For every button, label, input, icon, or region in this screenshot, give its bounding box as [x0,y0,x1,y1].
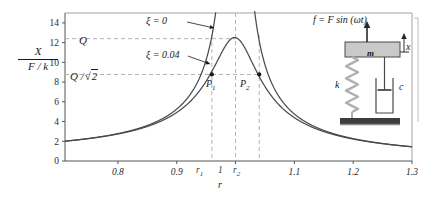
damped-curve-label: ξ = 0.04 [146,49,180,60]
inset-force-label: f = F sin (ωt) [313,14,367,25]
y-axis-label-denominator: F / k [18,61,58,73]
frequency-response-plot: 024681012140.80.91.11.21.3 [0,0,434,199]
inset-displacement-label: x [406,41,410,52]
y-tick-label: 6 [54,97,59,107]
inset-mass-label: m [367,48,374,58]
y-axis-label-numerator: X [18,46,58,58]
q-over-sqrt2-label: Q /2 [70,70,98,82]
curve-undamped [65,11,412,147]
sqrt-symbol: 2 [84,70,99,82]
x-tick-label: 0.8 [112,167,124,177]
y-tick-label: 14 [50,18,60,28]
undamped-curve-label: ξ = 0 [146,15,167,26]
ground-base [340,118,400,124]
inset-damper-label: c [399,81,403,92]
sqrt-radicand: 2 [91,69,99,82]
x-tick-label: 1.1 [288,167,300,177]
y-axis-label: X F / k [18,46,58,72]
y-tick-label: 8 [54,77,59,87]
spring [346,57,358,112]
xtick-r2: r2 [233,165,240,178]
point-p1-label: P1 [206,78,216,92]
x-tick-label: 1.3 [406,167,418,177]
mass-spring-damper-inset [340,18,418,125]
y-tick-label: 0 [54,156,59,166]
point-p2-subscript: 2 [246,84,250,92]
q-over-sqrt2-prefix: Q / [70,70,84,82]
xtick-unity: 1 [218,165,223,175]
inset-spring-label: k [335,79,339,90]
x-tick-label: 1.2 [347,167,359,177]
inset-bracket [414,18,418,122]
q-level-label: Q [79,34,87,46]
marker-P1 [210,72,214,76]
x-tick-label: 0.9 [171,167,183,177]
displacement-arrow-head [401,33,407,39]
y-tick-label: 4 [54,117,59,127]
resonance-figure: 024681012140.80.91.11.21.3 X F / k Q Q /… [0,0,434,199]
point-p1-subscript: 1 [212,84,216,92]
y-tick-label: 2 [54,137,59,147]
point-p2-label: P2 [240,78,250,92]
x-axis-label: r [218,180,222,190]
marker-P2 [257,72,261,76]
xtick-r1: r1 [196,165,203,178]
